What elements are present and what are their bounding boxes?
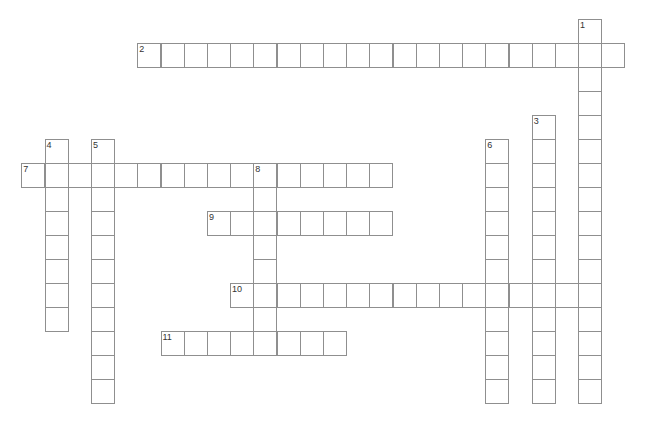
crossword-cell[interactable] (91, 355, 115, 380)
crossword-cell[interactable] (253, 331, 277, 356)
crossword-cell[interactable] (578, 331, 602, 356)
crossword-cell[interactable] (369, 163, 393, 188)
crossword-cell[interactable] (369, 283, 393, 308)
crossword-cell[interactable] (230, 43, 254, 68)
crossword-cell[interactable] (532, 283, 556, 308)
crossword-cell[interactable] (91, 211, 115, 236)
crossword-cell[interactable] (253, 235, 277, 260)
crossword-cell[interactable] (578, 139, 602, 164)
crossword-cell[interactable] (207, 163, 231, 188)
crossword-cell[interactable] (578, 187, 602, 212)
crossword-cell[interactable] (485, 235, 509, 260)
crossword-cell[interactable] (509, 283, 533, 308)
crossword-cell[interactable]: 9 (207, 211, 231, 236)
crossword-cell[interactable] (323, 331, 347, 356)
crossword-cell[interactable] (555, 43, 579, 68)
crossword-cell[interactable] (253, 307, 277, 332)
crossword-cell[interactable] (253, 43, 277, 68)
crossword-cell[interactable] (532, 139, 556, 164)
crossword-cell[interactable] (300, 331, 324, 356)
crossword-cell[interactable] (485, 331, 509, 356)
crossword-cell[interactable] (323, 163, 347, 188)
crossword-cell[interactable] (230, 331, 254, 356)
crossword-cell[interactable] (532, 163, 556, 188)
crossword-cell[interactable] (253, 259, 277, 284)
crossword-cell[interactable] (532, 307, 556, 332)
crossword-cell[interactable] (230, 163, 254, 188)
crossword-cell[interactable] (578, 211, 602, 236)
crossword-cell[interactable] (300, 283, 324, 308)
crossword-cell[interactable] (439, 43, 463, 68)
crossword-cell[interactable] (161, 163, 185, 188)
crossword-cell[interactable] (416, 283, 440, 308)
crossword-cell[interactable] (532, 379, 556, 404)
crossword-cell[interactable] (485, 307, 509, 332)
crossword-cell[interactable] (45, 259, 69, 284)
crossword-cell[interactable] (300, 43, 324, 68)
crossword-cell[interactable] (207, 331, 231, 356)
crossword-cell[interactable] (369, 211, 393, 236)
crossword-cell[interactable]: 5 (91, 139, 115, 164)
crossword-cell[interactable] (114, 163, 138, 188)
crossword-cell[interactable]: 7 (21, 163, 45, 188)
crossword-cell[interactable] (277, 283, 301, 308)
crossword-cell[interactable]: 11 (161, 331, 185, 356)
crossword-cell[interactable] (532, 43, 556, 68)
crossword-cell[interactable] (346, 211, 370, 236)
crossword-cell[interactable] (323, 211, 347, 236)
crossword-cell[interactable] (369, 43, 393, 68)
crossword-cell[interactable] (68, 163, 92, 188)
crossword-cell[interactable] (532, 331, 556, 356)
crossword-cell[interactable] (578, 91, 602, 116)
crossword-cell[interactable] (323, 283, 347, 308)
crossword-cell[interactable] (91, 331, 115, 356)
crossword-cell[interactable] (509, 43, 533, 68)
crossword-cell[interactable] (300, 163, 324, 188)
crossword-cell[interactable] (439, 283, 463, 308)
crossword-cell[interactable] (277, 211, 301, 236)
crossword-cell[interactable] (253, 211, 277, 236)
crossword-cell[interactable] (532, 211, 556, 236)
crossword-cell[interactable] (462, 43, 486, 68)
crossword-cell[interactable] (532, 187, 556, 212)
crossword-cell[interactable] (184, 331, 208, 356)
crossword-cell[interactable]: 3 (532, 115, 556, 140)
crossword-cell[interactable] (45, 307, 69, 332)
crossword-cell[interactable] (346, 283, 370, 308)
crossword-cell[interactable]: 4 (45, 139, 69, 164)
crossword-cell[interactable] (578, 283, 602, 308)
crossword-cell[interactable] (416, 43, 440, 68)
crossword-cell[interactable] (346, 163, 370, 188)
crossword-cell[interactable] (485, 163, 509, 188)
crossword-cell[interactable]: 2 (137, 43, 161, 68)
crossword-cell[interactable] (578, 355, 602, 380)
crossword-cell[interactable] (393, 43, 417, 68)
crossword-cell[interactable]: 10 (230, 283, 254, 308)
crossword-cell[interactable] (601, 43, 625, 68)
crossword-cell[interactable] (578, 115, 602, 140)
crossword-cell[interactable] (555, 283, 579, 308)
crossword-cell[interactable] (91, 259, 115, 284)
crossword-cell[interactable] (485, 379, 509, 404)
crossword-cell[interactable]: 6 (485, 139, 509, 164)
crossword-cell[interactable] (45, 211, 69, 236)
crossword-cell[interactable] (578, 307, 602, 332)
crossword-cell[interactable] (393, 283, 417, 308)
crossword-cell[interactable] (137, 163, 161, 188)
crossword-cell[interactable] (532, 235, 556, 260)
crossword-cell[interactable] (578, 235, 602, 260)
crossword-cell[interactable] (277, 163, 301, 188)
crossword-cell[interactable] (230, 211, 254, 236)
crossword-cell[interactable] (45, 163, 69, 188)
crossword-cell[interactable] (323, 43, 347, 68)
crossword-cell[interactable] (91, 187, 115, 212)
crossword-cell[interactable] (253, 283, 277, 308)
crossword-cell[interactable]: 1 (578, 19, 602, 44)
crossword-cell[interactable]: 8 (253, 163, 277, 188)
crossword-cell[interactable] (462, 283, 486, 308)
crossword-cell[interactable] (184, 163, 208, 188)
crossword-cell[interactable] (91, 283, 115, 308)
crossword-cell[interactable] (45, 187, 69, 212)
crossword-cell[interactable] (300, 211, 324, 236)
crossword-cell[interactable] (45, 283, 69, 308)
